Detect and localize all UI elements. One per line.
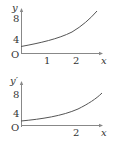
y-tick-8: 8 [13,90,19,100]
y-tick-4: 4 [13,35,19,45]
y-axis-arrow-icon [20,8,23,12]
x-tick-1: 1 [44,56,50,66]
x-tick-2: 2 [73,128,79,138]
origin-label: O [11,50,19,60]
y-axis-label: y [12,3,18,13]
curve-y [21,11,97,47]
x-tick-2: 2 [73,56,79,66]
y-tick-4: 4 [13,109,19,119]
chart-y-prime: y′ 8 4 O 2 x [0,73,117,146]
chart-y: y 8 4 O 1 2 x [0,0,117,73]
origin-label: O [11,123,19,133]
y-prime-axis-label: y′ [10,76,18,86]
y-axis-arrow-icon [20,81,23,85]
y-tick-8: 8 [13,14,19,24]
curve-y-prime [21,93,102,121]
x-axis-label: x [101,56,107,66]
x-axis-label: x [101,128,107,138]
